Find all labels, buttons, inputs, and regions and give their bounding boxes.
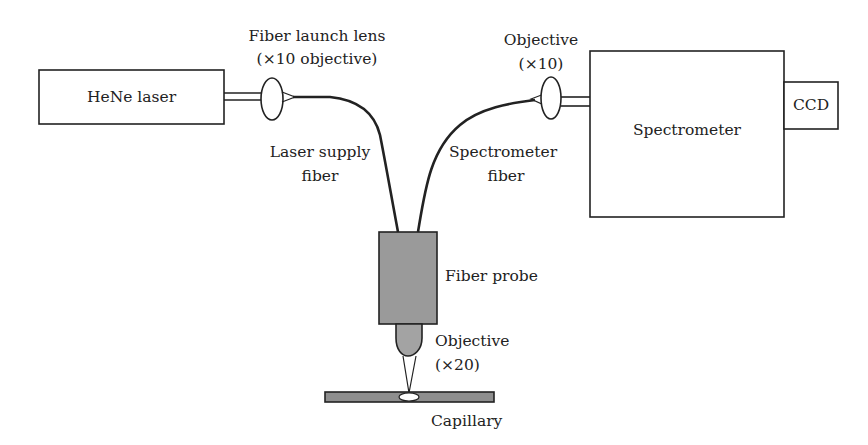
spectrometer-fiber-label-line1: Spectrometer [449,143,557,162]
capillary-label: Capillary [431,412,502,431]
spectrometer-fiber [418,100,535,232]
spectrometer-objective-label-line2: (×10) [486,55,596,74]
capillary-sample-spot [399,393,419,401]
hene-laser-label: HeNe laser [39,88,224,107]
fiber-probe-label: Fiber probe [445,267,538,286]
ccd-label: CCD [784,96,838,115]
launch-lens-icon [261,78,283,120]
launch-lens-label-line1: Fiber launch lens [232,27,402,46]
spectrometer-objective-label-line1: Objective [486,31,596,50]
spectrometer-objective-icon [541,77,561,119]
optical-setup-diagram [0,0,868,445]
laser-fiber-label-line2: fiber [260,167,380,186]
laser-supply-fiber [293,97,398,232]
fiber-probe-body [379,232,437,324]
probe-objective-label-line2: (×20) [435,356,480,375]
probe-objective-label-line1: Objective [435,332,509,351]
laser-fiber-label-line1: Laser supply [260,143,380,162]
spectrometer-label: Spectrometer [590,121,784,140]
spectrometer-fiber-label-line2: fiber [449,167,563,186]
probe-focus-cone [403,356,416,393]
launch-lens-label-line2: (×10 objective) [232,50,402,69]
probe-objective-icon [396,324,422,356]
